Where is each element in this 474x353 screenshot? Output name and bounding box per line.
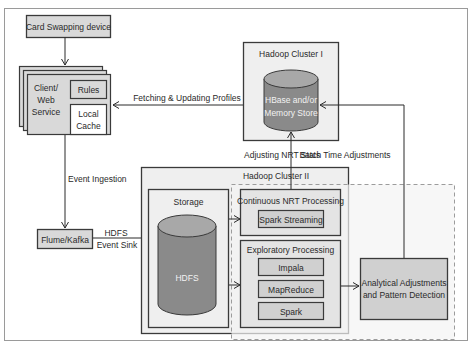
batch-time-label: Batch Time Adjustments [299,150,390,160]
impala-node: Impala [259,259,324,276]
exploratory-label: Exploratory Processing [247,245,335,255]
spark-label: Spark [280,307,303,317]
rules-label: Rules [78,85,100,95]
card-swapping-device-node: Card Swapping device [26,16,111,38]
hdfs-label: HDFS [175,273,198,283]
client-web-service-node: Client/ Web Service Rules Local Cache [20,67,111,135]
local-cache-line2: Cache [76,121,101,131]
hadoop-cluster-2-label: Hadoop Cluster II [243,171,309,181]
card-swapping-device-label: Card Swapping device [26,22,111,32]
client-label-line3: Service [32,107,61,117]
continuous-nrt-label: Continuous NRT Processing [237,196,344,206]
hadoop-cluster-1: Hadoop Cluster I HBase and/or Memory Sto… [244,43,339,141]
flume-kafka-label: Flume/Kafka [41,235,89,245]
spark-streaming-label: Spark Streaming [259,215,323,225]
client-label-line1: Client/ [34,83,59,93]
fetching-updating-label: Fetching & Updating Profiles [133,93,241,103]
local-cache-node: Local Cache [71,105,107,135]
diagram-svg: Card Swapping device Client/ Web Service… [0,0,474,353]
flume-kafka-node: Flume/Kafka [38,230,93,249]
continuous-nrt-processing-node: Continuous NRT Processing Spark Streamin… [237,190,344,236]
mapreduce-node: MapReduce [259,281,324,298]
hbase-memory-store-cylinder: HBase and/or Memory Store [264,70,318,131]
spark-streaming-node: Spark Streaming [259,211,324,228]
architecture-diagram: Card Swapping device Client/ Web Service… [0,0,474,353]
analytical-label-line1: Analytical Adjustments [361,278,446,288]
hbase-label-line2: Memory Store [264,108,318,118]
hadoop-cluster-1-label: Hadoop Cluster I [259,49,323,59]
hbase-label-line1: HBase and/or [265,95,317,105]
hdfs-event-sink-line1: HDFS [104,228,127,238]
storage-label: Storage [174,197,204,207]
local-cache-line1: Local [78,109,98,119]
analytical-adjustments-node: Analytical Adjustments and Pattern Detec… [361,259,448,320]
hdfs-cylinder: HDFS [158,215,216,315]
impala-label: Impala [278,263,304,273]
rules-node: Rules [71,81,107,99]
spark-node: Spark [259,303,324,320]
exploratory-processing-node: Exploratory Processing Impala MapReduce … [241,241,341,328]
client-label-line2: Web [37,95,55,105]
event-ingestion-label: Event Ingestion [68,174,127,184]
mapreduce-label: MapReduce [268,285,314,295]
analytical-label-line2: and Pattern Detection [363,290,445,300]
storage-node: Storage HDFS [149,190,229,328]
hdfs-event-sink-line2: Event Sink [97,240,138,250]
